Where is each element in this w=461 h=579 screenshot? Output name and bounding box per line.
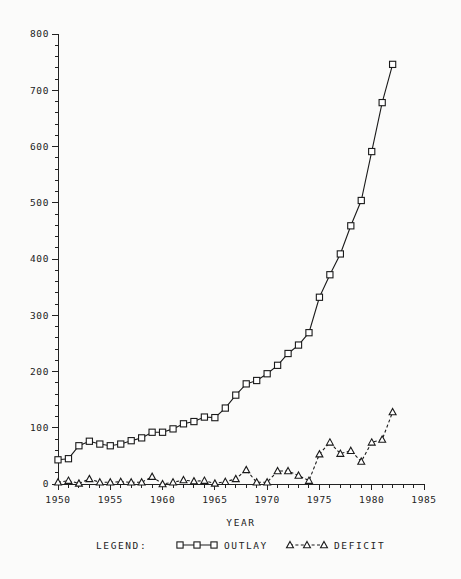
data-point-marker — [390, 61, 396, 67]
y-tick-label: 400 — [30, 253, 49, 264]
data-point-marker — [180, 421, 186, 427]
data-point-marker — [243, 466, 250, 472]
data-point-marker — [285, 350, 291, 356]
data-series — [55, 61, 397, 486]
series-line-outlay — [58, 64, 393, 459]
x-axis-title: YEAR — [226, 517, 255, 528]
data-point-marker — [222, 478, 229, 484]
y-tick-label: 800 — [30, 28, 49, 39]
y-tick-label: 500 — [30, 197, 49, 208]
data-point-marker — [232, 475, 239, 481]
x-tick-label: 1970 — [255, 494, 280, 505]
data-point-marker — [76, 443, 82, 449]
data-point-marker — [389, 408, 396, 414]
data-point-marker — [201, 414, 207, 420]
data-point-marker — [369, 148, 375, 154]
data-point-marker — [348, 223, 354, 229]
data-point-marker — [326, 439, 333, 445]
data-point-marker — [159, 429, 165, 435]
x-tick-label: 1965 — [202, 494, 227, 505]
data-point-marker — [358, 197, 364, 203]
y-tick-label: 100 — [30, 422, 49, 433]
data-point-marker — [65, 477, 72, 483]
data-point-marker — [149, 429, 155, 435]
data-point-marker — [170, 426, 176, 432]
y-tick-label: 200 — [30, 366, 49, 377]
chart-legend: LEGEND:OUTLAYDEFICIT — [96, 540, 385, 551]
data-point-marker — [86, 438, 92, 444]
data-point-marker — [65, 456, 71, 462]
axes — [52, 34, 424, 490]
legend-entry-label: DEFICIT — [334, 540, 385, 551]
data-point-marker — [149, 473, 156, 479]
legend-sample-marker — [304, 541, 311, 547]
data-point-marker — [118, 441, 124, 447]
data-point-marker — [327, 272, 333, 278]
data-point-marker — [233, 392, 239, 398]
y-tick-label: 600 — [30, 141, 49, 152]
data-point-marker — [201, 477, 208, 483]
data-point-marker — [306, 330, 312, 336]
axis-labels: 0100200300400500600700800195019551960196… — [30, 28, 437, 528]
data-point-marker — [243, 381, 249, 387]
data-point-marker — [306, 477, 313, 483]
data-point-marker — [212, 415, 218, 421]
legend-sample-marker — [177, 542, 183, 548]
data-point-marker — [96, 479, 103, 485]
data-point-marker — [191, 418, 197, 424]
y-tick-label: 300 — [30, 310, 49, 321]
line-chart: 0100200300400500600700800195019551960196… — [0, 0, 461, 579]
data-point-marker — [211, 480, 218, 486]
series-deficit — [55, 408, 397, 486]
legend-label: LEGEND: — [96, 540, 147, 551]
data-point-marker — [128, 438, 134, 444]
data-point-marker — [222, 405, 228, 411]
data-point-marker — [379, 100, 385, 106]
data-point-marker — [107, 443, 113, 449]
data-point-marker — [347, 447, 354, 453]
legend-sample-marker — [321, 541, 328, 547]
data-point-marker — [379, 436, 386, 442]
legend-entry-deficit: DEFICIT — [287, 540, 386, 551]
data-point-marker — [358, 458, 365, 464]
data-point-marker — [117, 478, 124, 484]
data-point-marker — [295, 472, 302, 478]
data-point-marker — [86, 475, 93, 481]
x-tick-label: 1955 — [98, 494, 123, 505]
x-tick-label: 1960 — [150, 494, 175, 505]
data-point-marker — [254, 377, 260, 383]
legend-entry-outlay: OUTLAY — [177, 540, 268, 551]
data-point-marker — [275, 362, 281, 368]
data-point-marker — [170, 479, 177, 485]
legend-sample-marker — [211, 542, 217, 548]
legend-entry-label: OUTLAY — [224, 540, 268, 551]
data-point-marker — [316, 451, 323, 457]
x-tick-label: 1975 — [307, 494, 332, 505]
data-point-marker — [295, 342, 301, 348]
data-point-marker — [139, 435, 145, 441]
legend-sample-marker — [194, 542, 200, 548]
data-point-marker — [264, 371, 270, 377]
y-tick-label: 0 — [43, 478, 49, 489]
x-tick-label: 1950 — [45, 494, 70, 505]
series-outlay — [55, 61, 396, 463]
x-tick-label: 1980 — [359, 494, 384, 505]
data-point-marker — [180, 477, 187, 483]
data-point-marker — [97, 441, 103, 447]
data-point-marker — [316, 294, 322, 300]
x-tick-label: 1985 — [411, 494, 436, 505]
data-point-marker — [337, 251, 343, 257]
y-tick-label: 700 — [30, 85, 49, 96]
data-point-marker — [190, 478, 197, 484]
data-point-marker — [55, 457, 61, 463]
chart-container: 0100200300400500600700800195019551960196… — [0, 0, 461, 579]
